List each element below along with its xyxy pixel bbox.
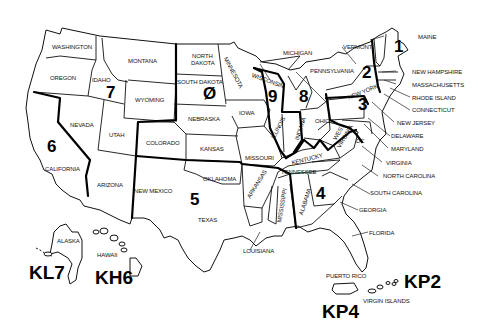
label-hawaii: HAWAII (97, 252, 117, 258)
callsign-kl7: KL7 (29, 263, 65, 282)
label-puerto-rico: PUERTO RICO (326, 273, 366, 279)
label-new-hampshire: NEW HAMPSHIRE (412, 69, 462, 75)
district-number-0: Ø (203, 85, 216, 102)
puerto-rico-shape (332, 283, 358, 294)
label-vermont: VERMONT (343, 44, 372, 50)
label-georgia: GEORGIA (359, 207, 386, 213)
label-alaska: ALASKA (57, 238, 80, 244)
label-new-mexico: NEW MEXICO (134, 188, 172, 194)
label-montana: MONTANA (128, 58, 157, 64)
label-rhode-island: RHODE ISLAND (412, 95, 456, 101)
district-number-5: 5 (190, 191, 199, 208)
label-virgin-islands: VIRGIN ISLANDS (363, 298, 410, 304)
label-massachusetts: MASSACHUSETTS (412, 82, 464, 88)
label-new-jersey: NEW JERSEY (397, 120, 435, 126)
district-number-8: 8 (299, 88, 308, 105)
label-colorado: COLORADO (146, 140, 180, 146)
label-north-dakota-2: DAKOTA (191, 60, 215, 66)
district-number-7: 7 (106, 84, 115, 101)
label-california: CALIFORNIA (45, 166, 80, 172)
label-nevada: NEVADA (70, 122, 94, 128)
label-louisiana: LOUISIANA (243, 248, 274, 254)
label-delaware: DELAWARE (391, 133, 423, 139)
district-number-2: 2 (362, 64, 371, 81)
district-number-3: 3 (358, 96, 367, 113)
label-maine: MAINE (418, 34, 437, 40)
label-oregon: OREGON (50, 75, 76, 81)
district-number-4: 4 (316, 185, 325, 202)
label-washington: WASHINGTON (52, 44, 92, 50)
label-nebraska: NEBRASKA (188, 116, 220, 122)
label-iowa: IOWA (239, 110, 254, 116)
label-ohio: OHIO (315, 118, 330, 124)
label-pennsylvania: PENNSYLVANIA (310, 68, 354, 74)
virgin-islands-shape (368, 280, 398, 294)
callsign-kp2: KP2 (404, 272, 441, 291)
district-number-1: 1 (394, 38, 403, 55)
label-north-carolina: NORTH CAROLINA (383, 173, 435, 179)
label-maryland: MARYLAND (391, 146, 423, 152)
label-virginia: VIRGINIA (386, 160, 412, 166)
label-tennessee: TENNESSEE (281, 169, 316, 175)
district-number-9: 9 (268, 88, 277, 105)
callsign-kp4: KP4 (322, 302, 359, 321)
label-florida: FLORIDA (369, 230, 394, 236)
label-michigan: MICHIGAN (283, 50, 312, 56)
label-texas: TEXAS (198, 217, 217, 223)
label-south-carolina: SOUTH CAROLINA (370, 190, 422, 196)
label-dc: DC (356, 138, 364, 144)
label-utah: UTAH (109, 132, 125, 138)
label-north-dakota-1: NORTH (192, 53, 213, 59)
district-number-6: 6 (47, 138, 56, 155)
label-kansas: KANSAS (200, 146, 224, 152)
label-arizona: ARIZONA (97, 182, 123, 188)
label-oklahoma: OKLAHOMA (203, 176, 236, 182)
callsign-kh6: KH6 (95, 268, 133, 287)
label-missouri: MISSOURI (245, 155, 274, 161)
label-connecticut: CONNECTICUT (412, 107, 455, 113)
label-wyoming: WYOMING (135, 97, 164, 103)
